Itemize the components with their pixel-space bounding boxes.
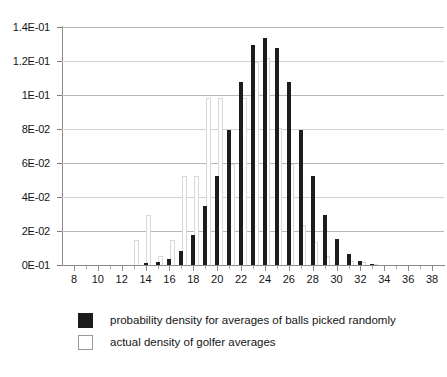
bar [134, 240, 139, 265]
x-tick-mark [408, 266, 409, 271]
bar [191, 235, 195, 265]
x-tick-label: 36 [402, 273, 414, 285]
x-tick-label: 26 [283, 273, 295, 285]
bar [239, 82, 243, 265]
y-tick-label: 2E-02 [22, 225, 50, 237]
x-tick-mark [420, 266, 421, 269]
bar [299, 130, 303, 265]
x-tick-label: 10 [92, 273, 104, 285]
x-tick-mark [86, 266, 87, 269]
x-tick-label: 30 [330, 273, 342, 285]
bar [347, 254, 351, 265]
x-tick-label: 16 [163, 273, 175, 285]
x-tick-mark [158, 266, 159, 269]
bar [287, 82, 291, 265]
y-tick-label: 1.2E-01 [13, 55, 50, 67]
x-tick-mark [217, 266, 218, 271]
chart-figure: 1.4E-011.2E-011E-018E-026E-024E-022E-020… [0, 0, 447, 377]
x-tick-mark [349, 266, 350, 269]
x-tick-mark [384, 266, 385, 271]
bar [335, 239, 339, 265]
x-tick-mark [325, 266, 326, 269]
y-tick-label: 6E-02 [22, 157, 50, 169]
y-tick-label: 8E-02 [22, 123, 50, 135]
x-tick-mark [110, 266, 111, 269]
x-tick-label: 28 [307, 273, 319, 285]
bar [275, 48, 279, 265]
bar-series-probability-density [62, 27, 444, 265]
x-tick-mark [372, 266, 373, 269]
legend-item: actual density of golfer averages [78, 331, 428, 353]
x-tick-mark [122, 266, 123, 271]
x-axis-ticks [62, 266, 445, 272]
x-tick-mark [169, 266, 170, 271]
bar [215, 176, 219, 265]
legend-item: probability density for averages of ball… [78, 309, 428, 331]
x-tick-mark [229, 266, 230, 269]
x-tick-mark [277, 266, 278, 269]
bar [146, 215, 151, 265]
y-tick-label: 0E-01 [22, 259, 50, 271]
x-tick-label: 24 [259, 273, 271, 285]
x-tick-mark [313, 266, 314, 271]
x-tick-mark [134, 266, 135, 269]
x-tick-mark [265, 266, 266, 271]
x-tick-mark [337, 266, 338, 271]
bar [144, 263, 148, 265]
bar [251, 45, 255, 265]
x-tick-label: 8 [71, 273, 77, 285]
x-tick-mark [241, 266, 242, 271]
bar [167, 259, 171, 265]
x-tick-label: 18 [187, 273, 199, 285]
x-tick-mark [301, 266, 302, 269]
bar [311, 176, 315, 265]
y-tick-label: 1.4E-01 [13, 21, 50, 33]
x-tick-mark [205, 266, 206, 269]
x-tick-mark [253, 266, 254, 269]
y-tick-label: 1E-01 [22, 89, 50, 101]
bar [370, 264, 374, 265]
x-tick-mark [193, 266, 194, 271]
x-tick-label: 34 [378, 273, 390, 285]
legend-swatch-light [78, 335, 93, 350]
x-tick-label: 12 [116, 273, 128, 285]
chart-legend: probability density for averages of ball… [78, 309, 428, 353]
plot-area [62, 27, 444, 265]
bar [156, 262, 160, 265]
y-tick-label: 4E-02 [22, 191, 50, 203]
legend-label: probability density for averages of ball… [110, 314, 396, 326]
legend-swatch-dark [78, 313, 93, 328]
x-tick-label: 32 [354, 273, 366, 285]
x-tick-mark [74, 266, 75, 271]
x-tick-label: 22 [235, 273, 247, 285]
x-tick-mark [289, 266, 290, 271]
bar [203, 206, 207, 265]
x-tick-mark [360, 266, 361, 271]
bar [227, 130, 231, 265]
x-axis-labels: 8101214161820222426283032343638 [62, 273, 445, 289]
legend-label: actual density of golfer averages [110, 336, 276, 348]
x-tick-mark [181, 266, 182, 269]
x-tick-mark [396, 266, 397, 269]
bar [179, 251, 183, 265]
x-tick-label: 20 [211, 273, 223, 285]
bar [323, 215, 327, 265]
x-tick-label: 38 [426, 273, 438, 285]
x-tick-label: 14 [139, 273, 151, 285]
bar [263, 38, 267, 265]
x-tick-mark [98, 266, 99, 271]
bar [358, 261, 362, 265]
y-axis: 1.4E-011.2E-011E-018E-026E-024E-022E-020… [0, 0, 58, 377]
x-tick-mark [146, 266, 147, 271]
x-tick-mark [432, 266, 433, 271]
